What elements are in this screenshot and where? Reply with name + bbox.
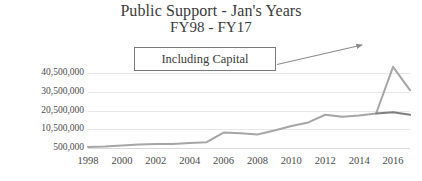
x-axis-labels: 1998200020022004200620082010201220142016 xyxy=(0,155,422,175)
chart-subtitle: FY98 - FY17 xyxy=(0,19,422,35)
callout-label: Including Capital xyxy=(161,52,248,67)
y-axis-tick-label: 10,500,000 xyxy=(0,123,84,133)
x-axis-tick-label: 2012 xyxy=(315,155,336,166)
x-axis-line xyxy=(88,148,410,149)
y-axis-tick-label: 20,500,000 xyxy=(0,105,84,115)
x-axis-tick-label: 2004 xyxy=(179,155,200,166)
x-axis-tick-label: 1998 xyxy=(78,155,99,166)
x-axis-tick-label: 2006 xyxy=(213,155,234,166)
x-axis-tick-label: 2000 xyxy=(111,155,132,166)
plot-area xyxy=(88,64,410,148)
y-axis-tick-label: 40,500,000 xyxy=(0,67,84,77)
y-axis-tick-label: 30,500,000 xyxy=(0,86,84,96)
chart-container: Public Support - Jan's Years FY98 - FY17… xyxy=(0,0,422,181)
including-capital-callout[interactable]: Including Capital xyxy=(134,47,276,71)
gridline xyxy=(88,73,410,74)
y-axis-tick-label: 500,000 xyxy=(0,142,84,152)
gridline xyxy=(88,92,410,93)
x-axis-tick-label: 2002 xyxy=(145,155,166,166)
x-axis-tick-label: 2014 xyxy=(349,155,370,166)
chart-title: Public Support - Jan's Years xyxy=(0,2,422,19)
x-axis-tick-label: 2016 xyxy=(383,155,404,166)
x-axis-tick-label: 2010 xyxy=(281,155,302,166)
chart-title-block: Public Support - Jan's Years FY98 - FY17 xyxy=(0,2,422,35)
gridline xyxy=(88,111,410,112)
gridline xyxy=(88,129,410,130)
arrow-line xyxy=(277,45,362,65)
x-axis-tick-label: 2008 xyxy=(247,155,268,166)
